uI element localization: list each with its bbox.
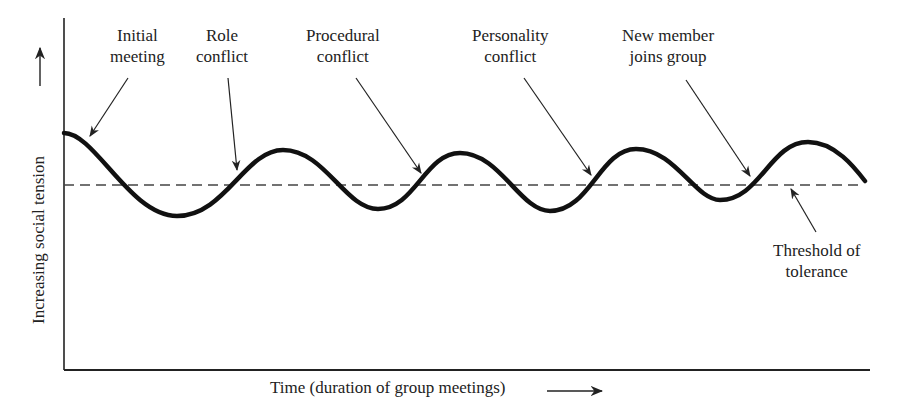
arrow-initial-meeting [90,78,128,136]
arrow-role-conflict [228,78,237,170]
label-line: Role [196,25,248,46]
label-line: Personality [472,25,549,46]
label-line: conflict [196,46,248,67]
label-line: conflict [472,46,549,67]
label-line: joins group [622,46,714,67]
label-role-conflict: Role conflict [196,25,248,67]
arrow-personality-conflict [524,78,591,175]
arrow-procedural-conflict [356,78,421,173]
label-line: meeting [110,46,165,67]
label-personality-conflict: Personality conflict [472,25,549,67]
x-axis-label: Time (duration of group meetings) [270,378,505,398]
label-line: New member [622,25,714,46]
label-initial-meeting: Initial meeting [110,25,165,67]
label-new-member: New member joins group [622,25,714,67]
label-line: Procedural [306,25,380,46]
y-axis-label: Increasing social tension [29,156,49,324]
label-procedural-conflict: Procedural conflict [306,25,380,67]
label-line: Initial [110,25,165,46]
label-line: conflict [306,46,380,67]
label-threshold: Threshold of tolerance [773,240,860,282]
arrow-threshold [791,189,816,232]
label-line: tolerance [773,261,860,282]
label-line: Threshold of [773,240,860,261]
tension-curve [64,133,865,216]
arrow-new-member [686,80,750,176]
